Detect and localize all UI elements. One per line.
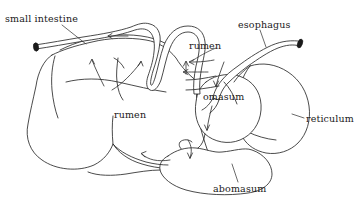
label-small-intestine: small intestine — [5, 14, 78, 24]
label-omasum: omasum — [203, 92, 244, 102]
label-rumen-body: rumen — [114, 110, 146, 120]
small-intestine-opening-icon — [33, 42, 39, 51]
label-reticulum: reticulum — [306, 114, 354, 124]
leader-esophagus — [260, 30, 266, 47]
label-abomasum: abomasum — [213, 184, 266, 194]
label-esophagus: esophagus — [238, 20, 291, 30]
esophagus-opening-icon — [296, 38, 304, 48]
label-rumen-upper: rumen — [189, 41, 221, 51]
anatomy-illustration — [0, 0, 357, 203]
abomasum-ventral-fold — [88, 170, 160, 175]
ruminant-stomach-diagram: small intestine esophagus rumen omasum r… — [0, 0, 357, 203]
